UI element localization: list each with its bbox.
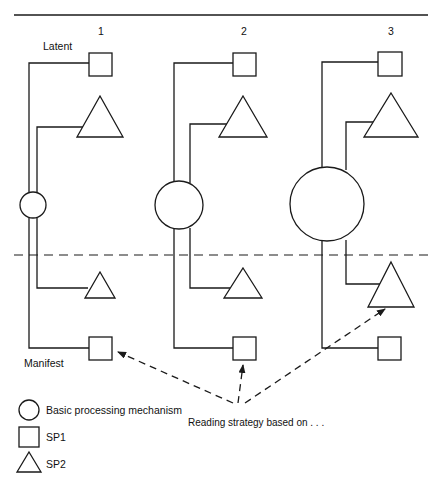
legend-triangle-icon bbox=[17, 452, 41, 472]
basic-mechanism-col3 bbox=[290, 167, 364, 241]
legend-label-square: SP1 bbox=[46, 432, 66, 443]
latent-sp1-col3 bbox=[378, 52, 402, 76]
latent-label: Latent bbox=[43, 41, 72, 52]
annot-arrow-to-col1 bbox=[118, 352, 233, 403]
column-header-1: 1 bbox=[93, 26, 109, 37]
legend-circle-icon bbox=[19, 400, 39, 420]
column-header-3: 3 bbox=[383, 26, 399, 37]
basic-mechanism-col2 bbox=[155, 181, 203, 229]
link-col2-circle-to-latent-sp1 bbox=[174, 63, 233, 183]
link-col1-circle-to-manifest-sp2 bbox=[37, 218, 88, 288]
manifest-sp1-col1 bbox=[89, 337, 112, 360]
legend-square-icon bbox=[19, 427, 39, 447]
figure-root: 1 2 3 Latent Manifest Basic processing m… bbox=[0, 0, 442, 486]
legend-label-circle: Basic processing mechanism bbox=[46, 405, 182, 416]
latent-sp1-col1 bbox=[89, 53, 112, 76]
latent-sp2-col3 bbox=[364, 93, 418, 137]
column-header-2: 2 bbox=[236, 26, 252, 37]
manifest-sp2-col1 bbox=[85, 272, 115, 298]
latent-sp2-col1 bbox=[77, 96, 123, 137]
annotation-label: Reading strategy based on . . . bbox=[188, 418, 324, 428]
manifest-sp2-col2 bbox=[224, 268, 262, 298]
manifest-sp1-col2 bbox=[233, 337, 256, 360]
legend-glyphs bbox=[17, 400, 41, 472]
column-1-group bbox=[20, 53, 123, 360]
manifest-label: Manifest bbox=[24, 358, 64, 369]
link-col3-circle-to-manifest-sp2 bbox=[346, 240, 380, 284]
column-2-group bbox=[155, 53, 267, 360]
column-3-group bbox=[290, 52, 418, 360]
latent-sp2-col2 bbox=[219, 96, 267, 137]
latent-sp1-col2 bbox=[233, 53, 256, 76]
link-col1-circle-to-manifest-sp1 bbox=[29, 218, 89, 348]
link-col3-circle-to-latent-sp1 bbox=[322, 62, 378, 168]
basic-mechanism-col1 bbox=[20, 192, 46, 218]
annot-arrow-to-col3 bbox=[245, 309, 385, 403]
legend-label-triangle: SP2 bbox=[46, 459, 66, 470]
link-col2-circle-to-manifest-sp2 bbox=[190, 228, 230, 288]
manifest-sp1-col3 bbox=[378, 337, 401, 360]
annot-arrow-to-col2 bbox=[238, 365, 243, 403]
